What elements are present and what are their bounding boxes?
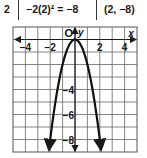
origin-label: O — [64, 27, 73, 39]
x-axis-label: x — [127, 28, 134, 39]
y-tick-label: −6 — [63, 110, 75, 121]
y-tick-label: −8 — [63, 135, 75, 146]
x-tick-label: 4 — [122, 42, 128, 53]
x-tick-label: 2 — [97, 42, 103, 53]
x-tick-label: −2 — [44, 42, 56, 53]
y-axis-label: y — [77, 27, 84, 38]
parabola-graph: −4−224−4−6−8Oyx — [0, 0, 147, 158]
y-tick-label: −4 — [63, 85, 75, 96]
x-tick-label: −4 — [20, 42, 32, 53]
